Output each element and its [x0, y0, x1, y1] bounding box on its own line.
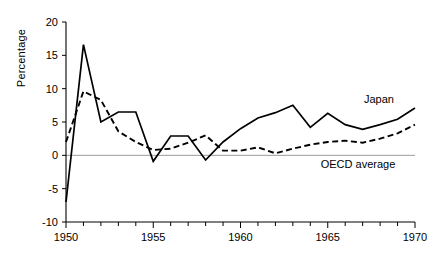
y-tick-label: 0: [52, 149, 58, 161]
x-tick-label: 1965: [316, 231, 340, 243]
x-tick-label: 1960: [228, 231, 252, 243]
y-tick-label: 10: [46, 83, 58, 95]
y-axis-ticks: -10-505101520: [42, 16, 66, 228]
x-tick-label: 1970: [403, 231, 427, 243]
series-line-japan: [66, 45, 415, 202]
y-tick-label: -10: [42, 216, 58, 228]
chart-figure: Percentage -10-505101520 195019551960196…: [0, 0, 446, 277]
y-tick-label: 15: [46, 49, 58, 61]
x-tick-label: 1950: [54, 231, 78, 243]
y-tick-label: 20: [46, 16, 58, 28]
x-axis-ticks: 19501955196019651970: [54, 222, 427, 243]
chart-plot-area: -10-505101520 19501955196019651970 Japan…: [0, 0, 446, 277]
series-label-oecd-average: OECD average: [321, 158, 396, 170]
y-tick-label: -5: [48, 183, 58, 195]
y-tick-label: 5: [52, 116, 58, 128]
series-label-japan: Japan: [364, 93, 394, 105]
x-tick-label: 1955: [141, 231, 165, 243]
series-line-oecd-average: [66, 91, 415, 153]
